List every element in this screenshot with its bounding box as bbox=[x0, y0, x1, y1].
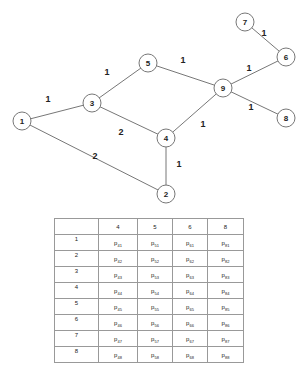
row-label: 5 bbox=[55, 299, 99, 315]
row-label: 2 bbox=[55, 251, 99, 267]
graph-edges bbox=[22, 22, 286, 194]
table-cell: p46 bbox=[99, 315, 138, 331]
graph-edge-labels: 1212111111 bbox=[45, 28, 266, 169]
edge-weight-label: 1 bbox=[45, 94, 50, 104]
graph-edge bbox=[92, 103, 166, 138]
table-cell: p44 bbox=[99, 283, 138, 299]
table-header-cell: 5 bbox=[138, 219, 173, 235]
row-label: 6 bbox=[55, 315, 99, 331]
table-cell: p58 bbox=[138, 347, 173, 363]
table-row: 8p48p58p68p88 bbox=[55, 347, 244, 363]
node-label: 1 bbox=[20, 117, 25, 126]
table-header-cell: 6 bbox=[173, 219, 208, 235]
graph-edge bbox=[223, 57, 286, 88]
table-cell: p62 bbox=[173, 251, 208, 267]
row-label: 4 bbox=[55, 283, 99, 299]
edge-weight-label: 1 bbox=[180, 55, 185, 65]
node-label: 8 bbox=[284, 114, 289, 123]
table-body: 1p41p51p61p812p42p52p62p823p43p53p63p834… bbox=[55, 235, 244, 363]
edge-weight-label: 2 bbox=[118, 127, 123, 137]
table-cell: p88 bbox=[208, 347, 244, 363]
graph-edge bbox=[92, 63, 148, 103]
node-label: 7 bbox=[243, 18, 248, 27]
node-label: 2 bbox=[164, 190, 169, 199]
table-row: 7p47p57p67p87 bbox=[55, 331, 244, 347]
edge-weight-label: 1 bbox=[104, 67, 109, 77]
table-cell: p55 bbox=[138, 299, 173, 315]
table-cell: p43 bbox=[99, 267, 138, 283]
probability-table: 4 5 6 8 1p41p51p61p812p42p52p62p823p43p5… bbox=[54, 218, 244, 363]
graph-node: 7 bbox=[236, 13, 254, 31]
graph-edge bbox=[166, 88, 223, 138]
graph-node: 4 bbox=[157, 129, 175, 147]
graph-edge bbox=[223, 88, 286, 118]
table-cell: p45 bbox=[99, 299, 138, 315]
table-cell: p64 bbox=[173, 283, 208, 299]
table-cell: p67 bbox=[173, 331, 208, 347]
graph-node: 5 bbox=[139, 54, 157, 72]
table-cell: p83 bbox=[208, 267, 244, 283]
table-cell: p42 bbox=[99, 251, 138, 267]
table-cell: p54 bbox=[138, 283, 173, 299]
table-cell: p51 bbox=[138, 235, 173, 251]
table-cell: p47 bbox=[99, 331, 138, 347]
table-header-cell: 8 bbox=[208, 219, 244, 235]
graph-node: 8 bbox=[277, 109, 295, 127]
node-label: 6 bbox=[284, 53, 289, 62]
table-header-cell bbox=[55, 219, 99, 235]
row-label: 3 bbox=[55, 267, 99, 283]
table-cell: p53 bbox=[138, 267, 173, 283]
node-label: 5 bbox=[146, 59, 151, 68]
graph-edge bbox=[148, 63, 223, 88]
table-cell: p66 bbox=[173, 315, 208, 331]
edge-weight-label: 2 bbox=[92, 151, 97, 161]
table-row: 2p42p52p62p82 bbox=[55, 251, 244, 267]
edge-weight-label: 1 bbox=[200, 119, 205, 129]
table-row: 4p44p54p64p84 bbox=[55, 283, 244, 299]
table-row: 1p41p51p61p81 bbox=[55, 235, 244, 251]
node-label: 9 bbox=[221, 84, 226, 93]
node-label: 3 bbox=[90, 99, 95, 108]
table-cell: p52 bbox=[138, 251, 173, 267]
node-label: 4 bbox=[164, 134, 169, 143]
graph-node: 6 bbox=[277, 48, 295, 66]
row-label: 8 bbox=[55, 347, 99, 363]
row-label: 1 bbox=[55, 235, 99, 251]
table-row: 6p46p56p66p86 bbox=[55, 315, 244, 331]
table-row: 5p45p55p65p85 bbox=[55, 299, 244, 315]
table-cell: p61 bbox=[173, 235, 208, 251]
graph-node: 9 bbox=[214, 79, 232, 97]
table-cell: p41 bbox=[99, 235, 138, 251]
table-cell: p87 bbox=[208, 331, 244, 347]
edge-weight-label: 1 bbox=[176, 159, 181, 169]
network-graph: 1212111111 123456789 bbox=[0, 0, 307, 210]
table-cell: p82 bbox=[208, 251, 244, 267]
table-header-cell: 4 bbox=[99, 219, 138, 235]
edge-weight-label: 1 bbox=[246, 63, 251, 73]
table-cell: p57 bbox=[138, 331, 173, 347]
graph-node: 1 bbox=[13, 112, 31, 130]
table-cell: p56 bbox=[138, 315, 173, 331]
table-header-row: 4 5 6 8 bbox=[55, 219, 244, 235]
table-cell: p86 bbox=[208, 315, 244, 331]
graph-node: 2 bbox=[157, 185, 175, 203]
row-label: 7 bbox=[55, 331, 99, 347]
table-cell: p48 bbox=[99, 347, 138, 363]
table-cell: p81 bbox=[208, 235, 244, 251]
table-cell: p65 bbox=[173, 299, 208, 315]
table-cell: p68 bbox=[173, 347, 208, 363]
graph-node: 3 bbox=[83, 94, 101, 112]
graph-edge bbox=[22, 103, 92, 121]
edge-weight-label: 1 bbox=[248, 102, 253, 112]
table-cell: p85 bbox=[208, 299, 244, 315]
table-row: 3p43p53p63p83 bbox=[55, 267, 244, 283]
table-cell: p63 bbox=[173, 267, 208, 283]
edge-weight-label: 1 bbox=[261, 28, 266, 38]
table-cell: p84 bbox=[208, 283, 244, 299]
